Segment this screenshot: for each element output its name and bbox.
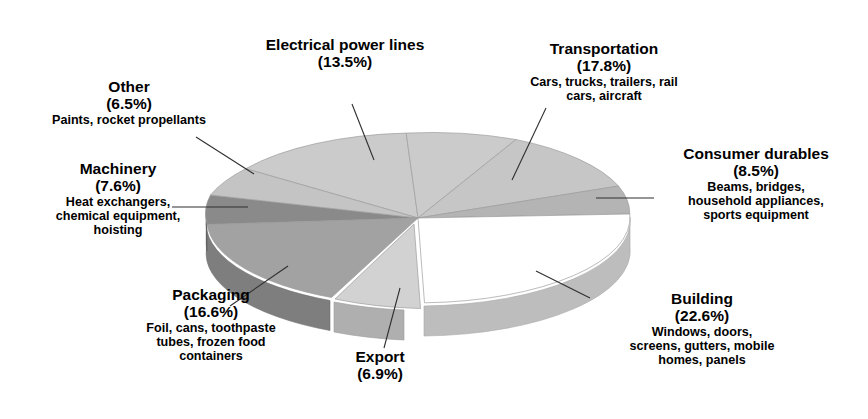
slice-label-percent: (17.8%): [484, 57, 724, 74]
slice-label-desc-line: tubes, frozen food: [100, 335, 322, 349]
slice-label-desc-line: Paints, rocket propellants: [26, 113, 232, 127]
slice-label-desc-line: homes, panels: [588, 353, 816, 367]
side-wall-export: [334, 302, 404, 340]
slice-label-building: Building (22.6%) Windows, doors, screens…: [588, 290, 816, 367]
slice-label-machinery: Machinery (7.6%) Heat exchangers, chemic…: [14, 160, 222, 237]
slice-label-percent: (6.5%): [26, 95, 232, 112]
slice-label-desc-line: Windows, doors,: [588, 325, 816, 339]
slice-label-export: Export (6.9%): [324, 348, 436, 383]
slice-label-percent: (22.6%): [588, 307, 816, 324]
slice-label-transportation: Transportation (17.8%) Cars, trucks, tra…: [484, 40, 724, 103]
slice-label-desc-line: cars, aircraft: [484, 89, 724, 103]
slice-label-desc-line: Beams, bridges,: [644, 180, 868, 194]
slice-label-desc-line: chemical equipment,: [14, 209, 222, 223]
slice-label-percent: (16.6%): [100, 303, 322, 320]
slice-label-desc-line: Cars, trucks, trailers, rail: [484, 75, 724, 89]
slice-label-desc-line: containers: [100, 349, 322, 363]
slice-label-title: Packaging: [100, 286, 322, 303]
slice-label-percent: (6.9%): [324, 365, 436, 382]
slice-label-title: Building: [588, 290, 816, 307]
slice-label-desc-line: sports equipment: [644, 208, 868, 222]
slice-label-title: Electrical power lines: [222, 36, 468, 53]
slice-label-percent: (7.6%): [14, 177, 222, 194]
slice-label-desc-line: Heat exchangers,: [14, 195, 222, 209]
slice-label-title: Transportation: [484, 40, 724, 57]
slice-label-title: Machinery: [14, 160, 222, 177]
slice-label-desc-line: Foil, cans, toothpaste: [100, 321, 322, 335]
slice-label-desc-line: screens, gutters, mobile: [588, 339, 816, 353]
slice-label-other: Other (6.5%) Paints, rocket propellants: [26, 78, 232, 127]
slice-label-title: Other: [26, 78, 232, 95]
slice-label-title: Export: [324, 348, 436, 365]
slice-label-desc-line: household appliances,: [644, 194, 868, 208]
slice-label-percent: (8.5%): [644, 162, 868, 179]
slice-label-electrical-power-lines: Electrical power lines (13.5%): [222, 36, 468, 71]
slice-label-desc-line: hoisting: [14, 223, 222, 237]
slice-label-packaging: Packaging (16.6%) Foil, cans, toothpaste…: [100, 286, 322, 363]
slice-label-title: Consumer durables: [644, 145, 868, 162]
pie-chart-figure: Electrical power lines (13.5%) Transport…: [0, 0, 868, 419]
slice-label-percent: (13.5%): [222, 53, 468, 70]
slice-label-consumer-durables: Consumer durables (8.5%) Beams, bridges,…: [644, 145, 868, 222]
